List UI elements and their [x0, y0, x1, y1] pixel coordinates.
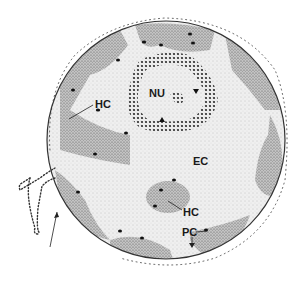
- label-heterochromatin-lower: HC: [183, 206, 199, 218]
- label-nucleolus: NU: [149, 87, 165, 99]
- label-euchromatin: EC: [193, 155, 208, 167]
- label-heterochromatin-upper: HC: [95, 98, 111, 110]
- nucleus-diagram: NU HC EC HC PC: [0, 0, 305, 281]
- endoplasmic-reticulum: [19, 168, 55, 234]
- nucleoplasm: [47, 21, 285, 265]
- label-perichromatin: PC: [182, 226, 197, 238]
